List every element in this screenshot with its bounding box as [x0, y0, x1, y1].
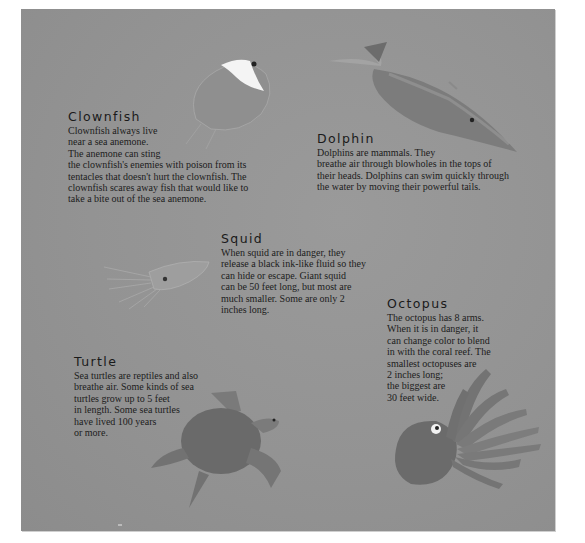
octopus-section: Octopus The octopus has 8 arms. When it …: [387, 296, 491, 403]
squid-illustration: [99, 247, 219, 327]
clownfish-line: tentacles that doesn't hurt the clownfis…: [68, 171, 248, 182]
clownfish-section: Clownfish Clownfish always live near a s…: [68, 109, 248, 205]
clownfish-line: clownfish scares away fish that would li…: [68, 182, 248, 193]
squid-title: Squid: [221, 231, 366, 246]
octopus-title: Octopus: [387, 296, 491, 311]
turtle-line: Sea turtles are reptiles and also: [74, 370, 198, 381]
turtle-description: Sea turtles are reptiles and also breath…: [74, 370, 198, 438]
clownfish-line: The anemone can sting: [68, 148, 248, 159]
clownfish-description: Clownfish always live near a sea anemone…: [68, 125, 248, 205]
octopus-line: the biggest are: [387, 380, 491, 391]
squid-line: release a black ink-like fluid so they: [221, 258, 366, 269]
clownfish-line: take a bite out of the sea anemone.: [68, 193, 248, 204]
squid-line: can be 50 feet long, but most are: [221, 281, 366, 292]
turtle-line: in length. Some sea turtles: [74, 404, 198, 415]
dolphin-line: their heads. Dolphins can swim quickly t…: [317, 170, 509, 181]
clownfish-line: Clownfish always live: [68, 125, 248, 136]
dolphin-line: Dolphins are mammals. They: [317, 147, 509, 158]
octopus-line: in with the coral reef. The: [387, 346, 491, 357]
squid-line: much smaller. Some are only 2: [221, 293, 366, 304]
turtle-section: Turtle Sea turtles are reptiles and also…: [74, 354, 198, 438]
squid-section: Squid When squid are in danger, they rel…: [221, 231, 366, 315]
octopus-line: 2 inches long;: [387, 369, 491, 380]
dolphin-section: Dolphin Dolphins are mammals. They breat…: [317, 131, 509, 193]
dolphin-title: Dolphin: [317, 131, 509, 146]
squid-line: When squid are in danger, they: [221, 247, 366, 258]
octopus-line: When it is in danger, it: [387, 323, 491, 334]
octopus-line: smallest octopuses are: [387, 358, 491, 369]
turtle-title: Turtle: [74, 354, 198, 369]
clownfish-line: the clownfish's enemies with poison from…: [68, 159, 248, 170]
clownfish-line: near a sea anemone.: [68, 136, 248, 147]
octopus-line: can change color to blend: [387, 335, 491, 346]
octopus-description: The octopus has 8 arms. When it is in da…: [387, 312, 491, 403]
octopus-line: The octopus has 8 arms.: [387, 312, 491, 323]
dolphin-line: breathe air through blowholes in the top…: [317, 158, 509, 169]
turtle-line: have lived 100 years: [74, 416, 198, 427]
illustrated-page: Clownfish Clownfish always live near a s…: [21, 9, 555, 531]
squid-line: inches long.: [221, 304, 366, 315]
scan-speck: [118, 524, 122, 526]
turtle-line: or more.: [74, 427, 198, 438]
squid-description: When squid are in danger, they release a…: [221, 247, 366, 315]
dolphin-line: the water by moving their powerful tails…: [317, 181, 509, 192]
octopus-line: 30 feet wide.: [387, 392, 491, 403]
turtle-line: breathe air. Some kinds of sea: [74, 381, 198, 392]
clownfish-title: Clownfish: [68, 109, 248, 124]
squid-line: can hide or escape. Giant squid: [221, 270, 366, 281]
dolphin-description: Dolphins are mammals. They breathe air t…: [317, 147, 509, 193]
turtle-line: turtles grow up to 5 feet: [74, 393, 198, 404]
